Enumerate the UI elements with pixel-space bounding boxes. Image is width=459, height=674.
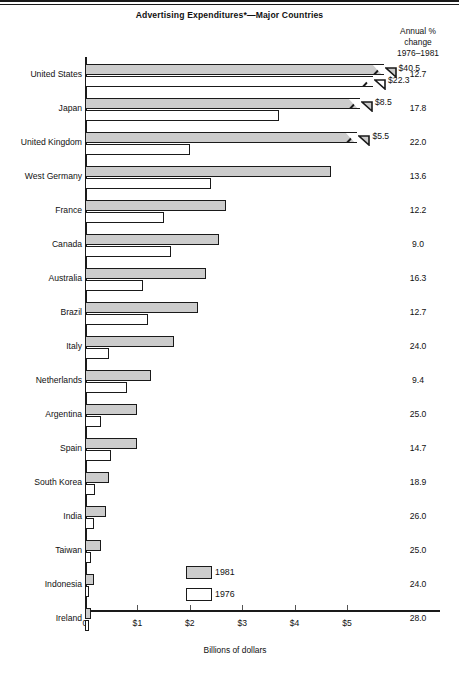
bar-1981 [85, 574, 94, 585]
category-label: Netherlands [0, 375, 82, 385]
legend-label-1976: 1976 [215, 589, 235, 599]
category-label: South Korea [0, 477, 82, 487]
bar-1976 [85, 518, 94, 529]
bar-1976 [85, 110, 279, 121]
bar-1976 [85, 280, 143, 291]
bar-1981 [85, 506, 106, 517]
annual-change-value: 12.2 [382, 205, 454, 215]
bar-1981 [85, 336, 174, 347]
legend-swatch-1976-icon [186, 588, 212, 601]
legend-label-1981: 1981 [215, 567, 235, 577]
chart-row: Netherlands9.4 [0, 367, 459, 401]
chart-row: France12.2 [0, 197, 459, 231]
annual-change-value: 24.0 [382, 341, 454, 351]
bar-1976 [85, 144, 190, 155]
category-label: Canada [0, 239, 82, 249]
bar-1981 [85, 132, 344, 143]
annual-change-value: 13.6 [382, 171, 454, 181]
category-label: India [0, 511, 82, 521]
bar-1976 [85, 246, 171, 257]
chart-row: Ireland28.0 [0, 605, 459, 639]
bar-1981 [85, 438, 137, 449]
chart-row: South Korea18.9 [0, 469, 459, 503]
annual-change-value: 25.0 [382, 545, 454, 555]
chart-row: West Germany13.6 [0, 163, 459, 197]
annual-change-value: 22.0 [382, 137, 454, 147]
category-label: Spain [0, 443, 82, 453]
chart-page: Advertising Expenditures*—Major Countrie… [0, 0, 459, 674]
annual-change-value: 9.0 [382, 239, 454, 249]
category-label: United Kingdom [0, 137, 82, 147]
category-label: West Germany [0, 171, 82, 181]
bar-break-wedge-icon [361, 98, 373, 109]
bar-1981 [85, 608, 91, 619]
annual-change-value: 9.4 [382, 375, 454, 385]
legend-swatch-1981-icon [186, 566, 212, 579]
bar-1976 [85, 552, 91, 563]
bar-1976 [85, 212, 164, 223]
x-axis-caption: Billions of dollars [85, 645, 385, 655]
bar-break-cut-icon [344, 132, 357, 143]
annual-change-value: 14.7 [382, 443, 454, 453]
chart-row: Brazil12.7 [0, 299, 459, 333]
annual-change-value: 28.0 [382, 613, 454, 623]
category-label: Indonesia [0, 579, 82, 589]
chart-row: Australia16.3 [0, 265, 459, 299]
category-label: Taiwan [0, 545, 82, 555]
bar-1976 [85, 178, 211, 189]
annual-change-value: 17.8 [382, 103, 454, 113]
bar-1976 [85, 314, 148, 325]
chart-row: Spain14.7 [0, 435, 459, 469]
bar-1981 [85, 404, 137, 415]
annual-change-value: 16.3 [382, 273, 454, 283]
annual-change-value: 25.0 [382, 409, 454, 419]
annual-change-value: 12.7 [382, 307, 454, 317]
bar-1981 [85, 268, 206, 279]
category-label: Argentina [0, 409, 82, 419]
category-label: Australia [0, 273, 82, 283]
bar-1981 [85, 472, 109, 483]
bar-1981 [85, 64, 371, 75]
bar-1976 [85, 76, 360, 87]
chart-row: Canada9.0 [0, 231, 459, 265]
bar-1981 [85, 166, 331, 177]
bar-break-cut-icon [347, 98, 360, 109]
category-label: France [0, 205, 82, 215]
category-label: Ireland [0, 613, 82, 623]
chart-row: India26.0 [0, 503, 459, 537]
bar-1981 [85, 370, 151, 381]
chart-row: Italy24.0 [0, 333, 459, 367]
annual-change-value: 18.9 [382, 477, 454, 487]
annual-change-value: 12.7 [382, 69, 454, 79]
chart-row: Japan$8.517.8 [0, 95, 459, 129]
chart-row: Argentina25.0 [0, 401, 459, 435]
bar-1976 [85, 484, 95, 495]
category-label: Brazil [0, 307, 82, 317]
category-label: United States [0, 69, 82, 79]
bar-1976 [85, 416, 101, 427]
annual-change-value: 24.0 [382, 579, 454, 589]
bar-break-wedge-icon [358, 132, 370, 143]
chart-row: Taiwan25.0 [0, 537, 459, 571]
chart-row: United States$40.5$22.312.7 [0, 61, 459, 95]
bar-1976 [85, 348, 109, 359]
bar-1976 [85, 450, 111, 461]
bar-1976 [85, 586, 89, 597]
category-label: Italy [0, 341, 82, 351]
bar-1981 [85, 98, 347, 109]
bar-1981 [85, 540, 101, 551]
bar-break-cut-icon [360, 76, 373, 87]
bar-1981 [85, 234, 219, 245]
bar-1976 [85, 382, 127, 393]
chart-row: United Kingdom$5.522.0 [0, 129, 459, 163]
bar-1976 [85, 620, 89, 631]
bar-1981 [85, 200, 226, 211]
annual-change-value: 26.0 [382, 511, 454, 521]
bar-1981 [85, 302, 198, 313]
category-label: Japan [0, 103, 82, 113]
